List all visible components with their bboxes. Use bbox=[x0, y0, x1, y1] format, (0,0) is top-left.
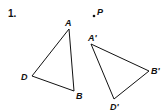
vertex-b-label: B bbox=[76, 91, 83, 101]
vertex-a-label: A bbox=[64, 18, 72, 28]
vertex-a-prime-label: A' bbox=[87, 33, 97, 43]
vertex-d-label: D bbox=[21, 72, 28, 82]
triangle-abd bbox=[32, 29, 74, 91]
rotation-diagram: 1. P A B D A' B' D' bbox=[0, 0, 166, 112]
problem-number: 1. bbox=[8, 8, 17, 19]
triangle-abd-prime bbox=[91, 44, 149, 99]
vertex-d-prime-label: D' bbox=[110, 102, 119, 112]
point-p bbox=[93, 15, 96, 18]
point-p-label: P bbox=[97, 7, 104, 17]
vertex-b-prime-label: B' bbox=[151, 66, 160, 76]
